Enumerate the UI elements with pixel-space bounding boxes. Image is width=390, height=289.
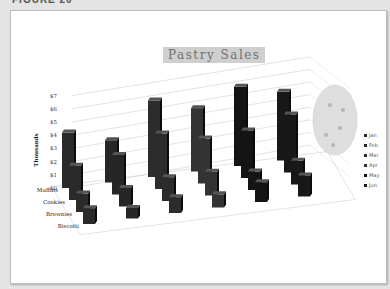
bar-top <box>205 169 219 172</box>
cookie-chip <box>324 133 328 137</box>
legend-label: May <box>369 172 379 178</box>
gridline-side <box>310 57 350 89</box>
legend-swatch <box>364 154 367 157</box>
bar-top <box>255 179 269 182</box>
bar-jun-biscotti <box>298 175 310 196</box>
legend-swatch <box>364 144 367 147</box>
bar-top <box>119 185 133 188</box>
legend-label: Mar <box>369 152 378 158</box>
legend-label: Jan <box>369 132 377 138</box>
bar-may-biscotti <box>255 182 267 202</box>
bar-top <box>148 97 162 100</box>
category-label: Biscotti <box>58 223 79 229</box>
cookie-chip <box>341 108 345 112</box>
bar-top <box>169 194 183 197</box>
bar-top <box>298 172 312 175</box>
bar-feb-brownies <box>119 188 131 206</box>
bar-side <box>267 179 269 202</box>
y-tick-label: $5 <box>50 119 57 125</box>
bar-mar-biscotti <box>169 197 181 213</box>
gridline <box>72 69 310 108</box>
y-tick-label: $7 <box>50 93 57 99</box>
bar-top <box>291 158 305 161</box>
category-label: Cookies <box>43 199 65 205</box>
cookie-chip <box>328 103 332 107</box>
legend-label: Feb <box>369 142 378 148</box>
legend-item: Jun <box>364 180 379 190</box>
chart-plot: $0$1$2$3$4$5$6$7ThousandsMuffinsCookiesB… <box>0 0 390 289</box>
bar-top <box>162 174 176 177</box>
bar-top <box>198 136 212 139</box>
legend-item: Feb <box>364 140 379 150</box>
category-label: Muffins <box>37 187 58 193</box>
bar-top <box>248 169 262 172</box>
legend-swatch <box>364 174 367 177</box>
bar-top <box>62 130 76 133</box>
bar-jan-biscotti <box>83 208 95 224</box>
legend-item: Mar <box>364 150 379 160</box>
bar-top <box>277 89 291 92</box>
y-tick-label: $4 <box>50 132 57 138</box>
legend-swatch <box>364 164 367 167</box>
bar-feb-biscotti <box>126 208 138 219</box>
chart-legend: JanFebMarAprMayJun <box>364 130 379 190</box>
y-tick-label: $1 <box>50 172 57 178</box>
cookie-chip <box>338 126 342 130</box>
legend-swatch <box>364 184 367 187</box>
legend-item: May <box>364 170 379 180</box>
legend-item: Jan <box>364 130 379 140</box>
bar-top <box>234 84 248 87</box>
bar-top <box>155 131 169 134</box>
bar-side <box>310 172 312 196</box>
bar-side <box>181 194 183 213</box>
bar-apr-biscotti <box>212 194 224 207</box>
bar-top <box>284 111 298 114</box>
bar-side <box>95 205 97 224</box>
bar-top <box>191 105 205 108</box>
y-tick-label: $2 <box>50 159 57 165</box>
bar-top <box>241 127 255 130</box>
category-label: Brownies <box>46 211 72 217</box>
bar-top <box>112 152 126 155</box>
bar-top <box>83 205 97 208</box>
legend-swatch <box>364 134 367 137</box>
bar-top <box>69 163 83 166</box>
legend-item: Apr <box>364 160 379 170</box>
cookie-chip <box>331 143 335 147</box>
chart-title: Pastry Sales <box>163 47 265 63</box>
cookie-image <box>313 85 357 155</box>
bar-side <box>131 185 133 206</box>
y-tick-label: $3 <box>50 145 57 151</box>
bar-top <box>105 137 119 140</box>
bar-top <box>76 191 90 194</box>
bar-top <box>212 191 226 194</box>
y-tick-label: $6 <box>50 106 57 112</box>
legend-label: Apr <box>369 162 378 168</box>
legend-label: Jun <box>369 182 377 188</box>
bar-top <box>126 205 140 208</box>
y-axis-label: Thousands <box>33 133 39 166</box>
